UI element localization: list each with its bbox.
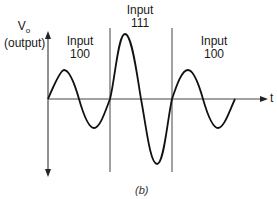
y-axis-up-arrow-icon (45, 31, 51, 39)
t-axis-label: t (270, 92, 273, 105)
segment-label-2: Input 111 (120, 4, 160, 30)
segment-label-2-title: Input (127, 3, 154, 17)
segment-label-3-title: Input (201, 34, 228, 48)
y-axis-label-unit: (output) (4, 36, 45, 50)
segment-label-1: Input 100 (60, 35, 100, 61)
segment-label-3: Input 100 (194, 35, 234, 61)
y-axis-label: Vo (output) (4, 20, 44, 50)
segment-label-1-value: 100 (70, 47, 90, 61)
y-axis-label-v: V (18, 19, 26, 33)
figure-caption: (b) (135, 184, 148, 196)
segment-label-2-value: 111 (131, 16, 149, 30)
y-axis-label-sub: o (26, 26, 30, 35)
segment-label-3-value: 100 (204, 47, 224, 61)
t-axis-arrow-icon (260, 96, 268, 102)
y-axis-down-arrow-icon (45, 169, 51, 177)
segment-label-1-title: Input (67, 34, 94, 48)
